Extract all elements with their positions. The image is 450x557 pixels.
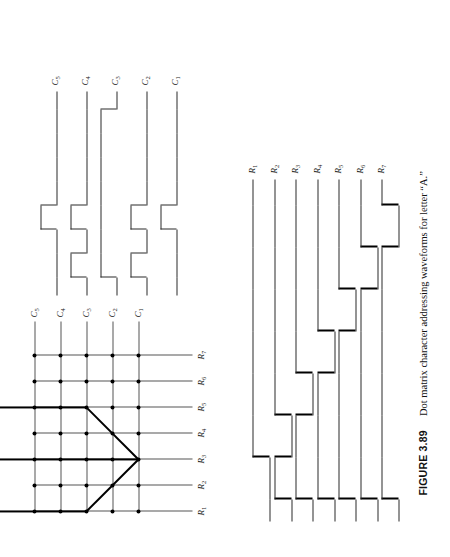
column-waveform-C3-level bbox=[116, 91, 117, 109]
figure-page: C1C2C3C4C5R1R2R3R4R5R6R7 C1C2C3C4C5 R1R2… bbox=[0, 0, 450, 557]
row-waveform-R2-level bbox=[274, 179, 275, 205]
row-waveform-R5-level bbox=[338, 205, 339, 247]
row-waveform-R1-level bbox=[252, 247, 253, 289]
row-waveform-R2-level bbox=[274, 289, 275, 331]
column-waveform-C5-level bbox=[56, 181, 57, 205]
matrix-dot-r7c4 bbox=[58, 353, 62, 357]
matrix-dot-r1c2 bbox=[110, 509, 114, 513]
row-waveform-R2-level bbox=[274, 247, 275, 289]
matrix-row-label-R6: R6 bbox=[196, 376, 207, 385]
row-waveform-R2-level bbox=[291, 415, 292, 457]
row-waveform-R7-level bbox=[381, 457, 382, 499]
matrix-dot-r5c1 bbox=[136, 405, 140, 409]
matrix-column-label-C3: C3 bbox=[81, 308, 92, 317]
column-waveform-C1-level bbox=[176, 229, 177, 253]
column-waveform-C5-level bbox=[56, 157, 57, 181]
row-waveform-R5-level bbox=[355, 499, 356, 521]
row-waveform-R5-level bbox=[338, 331, 339, 373]
matrix-dot-r4c3 bbox=[84, 431, 88, 435]
row-waveform-diagram: R1R2R3R4R5R6R7 bbox=[236, 91, 401, 521]
column-waveform-C4-level bbox=[86, 181, 87, 205]
row-waveform-R3-level bbox=[295, 289, 296, 331]
row-waveform-R7-level bbox=[381, 331, 382, 373]
column-waveform-C3-edge bbox=[100, 276, 116, 277]
row-waveform-R4-level bbox=[317, 179, 318, 205]
column-waveform-C2-level bbox=[146, 133, 147, 157]
row-waveform-R1-level bbox=[269, 457, 270, 499]
matrix-dot-r3c5 bbox=[32, 457, 36, 461]
row-waveform-R6-level bbox=[360, 205, 361, 247]
character-stroke-top-bar bbox=[0, 510, 86, 512]
matrix-dot-r5c2 bbox=[110, 405, 114, 409]
column-waveform-C2-level bbox=[130, 253, 131, 277]
matrix-row-label-R4: R4 bbox=[196, 428, 207, 437]
row-waveform-R6-edge bbox=[360, 245, 377, 247]
column-waveform-C1-level bbox=[176, 109, 177, 133]
matrix-dot-r1c1 bbox=[136, 509, 140, 513]
column-waveform-C2-level bbox=[146, 157, 147, 181]
matrix-dot-r7c5 bbox=[32, 353, 36, 357]
row-waveform-R6-edge bbox=[360, 287, 377, 289]
row-waveform-R3-level bbox=[295, 205, 296, 247]
row-waveform-R4-level bbox=[334, 331, 335, 373]
matrix-dot-r3c3 bbox=[84, 457, 88, 461]
row-waveform-R7-level bbox=[381, 289, 382, 331]
column-waveform-C1-edge bbox=[160, 204, 176, 205]
column-waveform-C5-level bbox=[56, 133, 57, 157]
row-waveform-label-R3: R3 bbox=[290, 164, 301, 173]
row-waveform-R4-level bbox=[317, 289, 318, 331]
row-waveform-R7-level bbox=[381, 247, 382, 289]
column-waveform-C3-level bbox=[100, 109, 101, 133]
row-waveform-R6-level bbox=[360, 179, 361, 205]
row-waveform-R6-level bbox=[360, 331, 361, 373]
column-waveform-C5-level bbox=[40, 205, 41, 229]
column-waveform-C2-level bbox=[146, 109, 147, 133]
matrix-dot-r2c3 bbox=[84, 483, 88, 487]
matrix-dot-r6c2 bbox=[110, 379, 114, 383]
column-waveform-label-C4: C4 bbox=[80, 76, 91, 85]
column-waveform-C4-edge bbox=[70, 252, 86, 253]
row-waveform-R6-level bbox=[377, 499, 378, 521]
row-waveform-R7-edge bbox=[381, 497, 398, 499]
row-waveform-R4-level bbox=[317, 415, 318, 457]
row-waveform-R7-level bbox=[381, 415, 382, 457]
row-waveform-R3-level bbox=[295, 179, 296, 205]
row-waveform-R7-level bbox=[381, 179, 382, 205]
column-waveform-C2-level bbox=[146, 277, 147, 295]
character-stroke-cross-bar bbox=[0, 458, 138, 460]
row-waveform-R7-level bbox=[398, 205, 399, 247]
row-waveform-R3-edge bbox=[295, 413, 312, 415]
rotated-page-wrapper: C1C2C3C4C5R1R2R3R4R5R6R7 C1C2C3C4C5 R1R2… bbox=[0, 0, 450, 557]
column-waveform-label-C5: C5 bbox=[50, 76, 61, 85]
row-waveform-label-R2: R2 bbox=[269, 164, 280, 173]
column-waveform-C4-level bbox=[70, 253, 71, 277]
row-waveform-R6-level bbox=[377, 247, 378, 289]
column-waveform-C1-level bbox=[176, 133, 177, 157]
figure-caption-text: Dot matrix character addressing waveform… bbox=[417, 171, 428, 416]
column-waveform-C1-level bbox=[176, 253, 177, 277]
matrix-dot-r5c3 bbox=[84, 405, 88, 409]
column-waveform-C3-level bbox=[116, 277, 117, 295]
matrix-row-label-R5: R5 bbox=[196, 402, 207, 411]
row-waveform-R6-level bbox=[360, 373, 361, 415]
row-waveform-label-R7: R7 bbox=[376, 164, 387, 173]
matrix-dot-r2c1 bbox=[136, 483, 140, 487]
matrix-row-label-R1: R1 bbox=[196, 506, 207, 515]
row-waveform-R7-level bbox=[398, 499, 399, 521]
row-waveform-R4-level bbox=[334, 499, 335, 521]
landscape-figure-canvas: C1C2C3C4C5R1R2R3R4R5R6R7 C1C2C3C4C5 R1R2… bbox=[0, 0, 450, 557]
column-waveform-C5-level bbox=[56, 91, 57, 109]
row-waveform-R2-level bbox=[274, 457, 275, 499]
row-waveform-R6-level bbox=[360, 457, 361, 499]
row-waveform-R6-level bbox=[360, 289, 361, 331]
matrix-dot-r6c1 bbox=[136, 379, 140, 383]
column-waveform-label-C3: C3 bbox=[110, 76, 121, 85]
row-waveform-R1-level bbox=[252, 179, 253, 205]
row-waveform-R5-edge bbox=[338, 329, 355, 331]
matrix-dot-r4c1 bbox=[136, 431, 140, 435]
column-waveform-C3-level bbox=[100, 157, 101, 181]
row-waveform-R4-edge bbox=[317, 329, 334, 331]
column-waveform-C2-level bbox=[146, 91, 147, 109]
column-waveform-C3-level bbox=[100, 181, 101, 205]
row-waveform-label-R6: R6 bbox=[355, 164, 366, 173]
